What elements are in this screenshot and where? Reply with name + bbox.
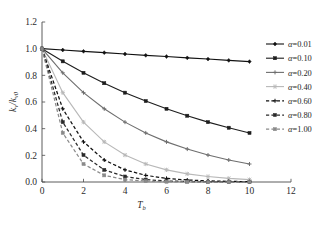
x-axis-label-sub: b — [143, 204, 147, 211]
series-marker — [123, 175, 126, 178]
x-tick-label: 12 — [286, 186, 296, 196]
series-marker — [164, 168, 168, 172]
chart-legend: α=0.01α=0.10α=0.20α=0.40α=0.60α=0.80α=1.… — [266, 40, 312, 134]
series-marker — [185, 147, 189, 151]
y-tick-label: 0.6 — [25, 97, 37, 107]
y-tick-label: 0.4 — [25, 124, 37, 134]
legend-label: α=0.10 — [288, 54, 312, 63]
series-marker — [164, 140, 168, 144]
x-tick-label: 10 — [245, 186, 255, 196]
series-marker — [165, 107, 168, 110]
series-marker — [227, 180, 230, 183]
x-tick-label: 8 — [206, 186, 211, 196]
chart-figure: 024681012 0.00.20.40.60.81.01.2 Tbkv/kv0… — [0, 0, 325, 232]
series-marker — [248, 180, 251, 183]
series---0-01 — [40, 47, 251, 64]
legend-label: α=0.20 — [288, 69, 312, 78]
series-marker — [103, 174, 106, 177]
series-marker — [144, 162, 148, 166]
series-marker — [227, 58, 230, 62]
decay-curves-chart: 024681012 0.00.20.40.60.81.01.2 Tbkv/kv0… — [0, 0, 325, 232]
series-marker — [102, 158, 106, 162]
series-marker — [102, 140, 106, 144]
x-tick-labels: 024681012 — [40, 186, 296, 196]
series-marker — [206, 153, 210, 157]
x-tick-label: 6 — [164, 186, 169, 196]
y-tick-label: 0.0 — [25, 177, 37, 187]
legend-marker-sample — [273, 57, 276, 60]
series-marker — [206, 174, 210, 178]
series-line — [42, 49, 250, 164]
y-axis-label: kv/kv0 — [8, 91, 19, 112]
series-marker — [144, 173, 148, 177]
series-marker — [123, 91, 126, 94]
series-marker — [165, 55, 168, 59]
series-marker — [186, 56, 189, 60]
legend-alpha-value: =0.40 — [292, 83, 311, 92]
legend-entry: α=0.80 — [266, 111, 312, 120]
legend-alpha-value: =0.10 — [292, 54, 311, 63]
x-axis-label: Tb — [137, 200, 146, 211]
series-marker — [81, 120, 85, 124]
legend-alpha-value: =0.80 — [292, 111, 311, 120]
x-tick-label: 0 — [40, 186, 45, 196]
series-line — [42, 49, 250, 180]
series-marker — [123, 153, 127, 157]
series-marker — [61, 91, 65, 95]
legend-marker-sample — [273, 113, 276, 116]
series-marker — [82, 71, 85, 74]
legend-entry: α=0.01 — [266, 40, 312, 49]
series-marker — [227, 158, 231, 162]
plot-area-container: 024681012 0.00.20.40.60.81.01.2 Tbkv/kv0… — [0, 0, 325, 232]
legend-entry: α=0.40 — [266, 83, 312, 92]
series-marker — [103, 51, 106, 55]
series-marker — [82, 154, 85, 157]
legend-marker-sample — [273, 128, 276, 131]
series-line — [42, 49, 250, 133]
series-marker — [185, 172, 189, 176]
series-marker — [82, 49, 85, 53]
series-marker — [186, 180, 189, 183]
legend-entry: α=0.60 — [266, 97, 312, 106]
series-marker — [144, 180, 147, 183]
legend-alpha-value: =1.00 — [292, 125, 311, 134]
y-tick-labels: 0.00.20.40.60.81.01.2 — [25, 17, 37, 187]
series-marker — [123, 52, 126, 56]
series-marker — [248, 131, 251, 134]
series-marker — [61, 131, 64, 134]
series-line — [42, 49, 250, 182]
y-axis-label-sub-2: v0 — [12, 91, 19, 98]
series-marker — [186, 114, 189, 117]
series-marker — [206, 180, 209, 183]
legend-entry: α=0.20 — [266, 69, 312, 78]
series-marker — [123, 178, 126, 181]
y-tick-label: 0.8 — [25, 71, 37, 81]
legend-label: α=0.60 — [288, 97, 312, 106]
series-marker — [82, 162, 85, 165]
series-marker — [61, 60, 64, 63]
legend-marker-sample — [273, 70, 277, 74]
series-group — [40, 47, 252, 184]
x-tick-label: 4 — [123, 186, 128, 196]
series-marker — [247, 162, 251, 166]
legend-marker-sample — [273, 84, 277, 88]
series-marker — [61, 107, 65, 111]
series-marker — [227, 126, 230, 129]
y-tick-label: 0.2 — [25, 151, 37, 161]
legend-label: α=0.80 — [288, 111, 312, 120]
y-tick-label: 1.2 — [25, 17, 37, 27]
legend-alpha-value: =0.01 — [292, 40, 311, 49]
legend-label: α=1.00 — [288, 125, 312, 134]
legend-entry: α=0.10 — [266, 54, 312, 63]
series-marker — [103, 82, 106, 85]
legend-marker-sample — [273, 99, 277, 103]
series-marker — [103, 168, 106, 171]
series-marker — [206, 57, 209, 61]
series-marker — [144, 100, 147, 103]
series-marker — [144, 131, 148, 135]
series-marker — [61, 121, 64, 124]
series-marker — [144, 53, 147, 57]
x-tick-label: 2 — [81, 186, 86, 196]
series-marker — [81, 140, 85, 144]
series-marker — [248, 60, 251, 64]
